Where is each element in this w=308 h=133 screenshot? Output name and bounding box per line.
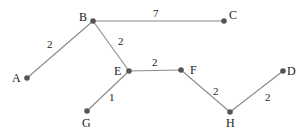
- node-label-C: C: [229, 8, 237, 22]
- node-label-F: F: [190, 63, 197, 77]
- node-G: [84, 108, 90, 114]
- node-B: [90, 18, 96, 24]
- nodes: ABCDEFGH: [12, 8, 296, 130]
- node-label-D: D: [287, 64, 296, 78]
- edge-weight-B-E: 2: [118, 35, 124, 47]
- edge-weight-A-B: 2: [47, 38, 53, 50]
- edge-weight-E-F: 2: [152, 56, 158, 68]
- edge-weight-E-G: 1: [109, 91, 115, 103]
- edge-weight-B-C: 7: [153, 7, 159, 19]
- node-F: [178, 67, 184, 73]
- edge-weight-F-H: 2: [213, 85, 219, 97]
- node-label-E: E: [114, 64, 121, 78]
- node-label-H: H: [226, 116, 235, 130]
- node-A: [24, 75, 30, 81]
- weighted-graph: 2722122 ABCDEFGH: [0, 0, 308, 133]
- edge-A-B: [27, 21, 93, 78]
- node-D: [280, 68, 286, 74]
- node-label-B: B: [79, 10, 87, 24]
- edge-E-G: [87, 71, 129, 111]
- node-C: [221, 18, 227, 24]
- node-E: [126, 68, 132, 74]
- node-H: [227, 109, 233, 115]
- edge-B-E: [93, 21, 129, 71]
- edge-H-D: [230, 71, 283, 112]
- edge-F-H: [181, 70, 230, 112]
- node-label-G: G: [82, 116, 91, 130]
- edge-E-F: [129, 70, 181, 71]
- node-label-A: A: [12, 71, 21, 85]
- edge-weight-H-D: 2: [265, 91, 271, 103]
- edges: 2722122: [27, 7, 283, 112]
